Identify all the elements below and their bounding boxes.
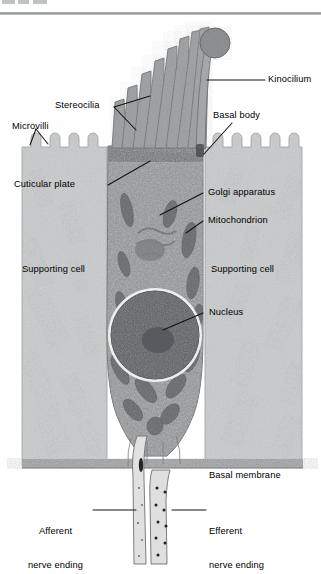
label-afferent-line1: Afferent: [18, 526, 93, 537]
label-efferent-line1: Efferent: [209, 526, 264, 537]
label-cuticular-plate: Cuticular plate: [14, 179, 75, 190]
label-efferent-line2: nerve ending: [209, 560, 264, 571]
header-rule: [0, 12, 321, 15]
label-golgi-apparatus: Golgi apparatus: [208, 187, 275, 198]
hair-cell-body: [105, 143, 207, 463]
basal-body: [196, 144, 204, 157]
nucleus-shape: [108, 288, 202, 382]
supporting-cell-right: [205, 133, 308, 468]
label-mitochondrion: Mitochondrion: [208, 215, 268, 226]
clipped-header-marks: [2, 0, 62, 6]
efferent-nerve-ending: [150, 470, 170, 564]
basal-membrane: [22, 459, 303, 468]
label-nucleus: Nucleus: [209, 307, 243, 318]
stereocilia-bundle: [112, 27, 209, 148]
label-basal-membrane: Basal membrane: [209, 470, 281, 481]
label-supporting-cell-right: Supporting cell: [211, 264, 274, 275]
label-efferent-nerve-ending: Efferent nerve ending: [209, 503, 264, 574]
label-afferent-line2: nerve ending: [18, 560, 93, 571]
figure-canvas: [0, 18, 321, 569]
label-kinocilium: Kinocilium: [268, 74, 311, 85]
hair-cell-figure: Kinocilium Basal body Stereocilia Microv…: [0, 18, 321, 569]
label-stereocilia: Stereocilia: [55, 100, 100, 111]
label-microvilli: Microvilli: [12, 121, 49, 132]
label-afferent-nerve-ending: Afferent nerve ending: [18, 503, 93, 574]
label-basal-body: Basal body: [213, 110, 260, 121]
label-supporting-cell-left: Supporting cell: [22, 264, 85, 275]
